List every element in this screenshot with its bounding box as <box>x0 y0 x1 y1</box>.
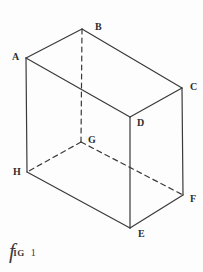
vertex-label-E: E <box>138 229 145 239</box>
figure-caption: f IG 1 <box>9 239 36 260</box>
vertex-label-C: C <box>190 82 197 92</box>
vertex-label-F: F <box>190 194 196 204</box>
edge-DA <box>26 58 130 117</box>
vertex-label-G: G <box>88 135 96 145</box>
edge-BG-hidden <box>81 29 82 142</box>
edge-CD <box>130 88 182 117</box>
edge-HE <box>27 172 130 228</box>
edge-GF-hidden <box>81 142 183 195</box>
edge-AB <box>26 29 82 58</box>
vertex-label-A: A <box>12 52 19 62</box>
cuboid-diagram <box>0 0 203 272</box>
vertex-label-B: B <box>95 22 102 32</box>
vertex-label-D: D <box>137 118 144 128</box>
hidden-edges-group <box>27 29 183 195</box>
edge-BC <box>82 29 182 88</box>
edge-AH <box>26 58 27 172</box>
caption-lead-letter: f <box>9 241 14 262</box>
vertex-label-H: H <box>13 167 21 177</box>
edge-GH-hidden <box>27 142 81 172</box>
edge-CF <box>182 88 183 195</box>
edge-EF <box>130 195 183 228</box>
caption-figure-number: 1 <box>31 248 36 258</box>
figure-container: ABCDGHFE f IG 1 <box>0 0 203 272</box>
caption-small-caps: IG <box>13 249 24 258</box>
solid-edges-group <box>26 29 183 228</box>
